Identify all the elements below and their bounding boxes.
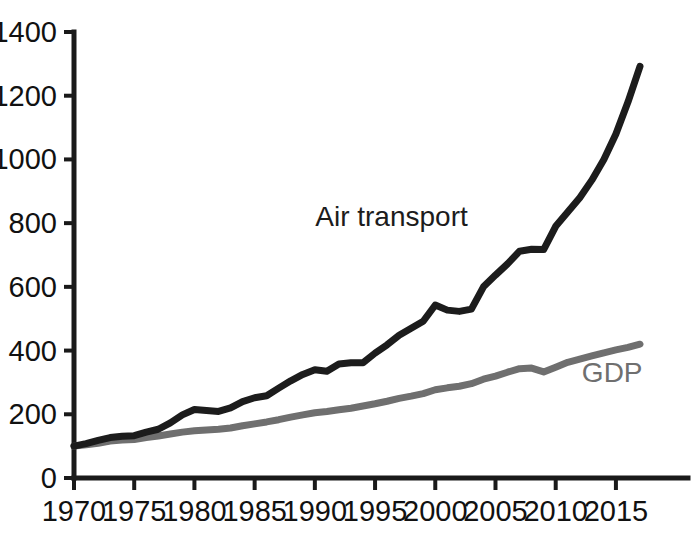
series-label-gdp: GDP bbox=[582, 357, 643, 388]
plot-background bbox=[0, 0, 696, 533]
x-tick-label: 2000 bbox=[403, 495, 468, 527]
y-tick-label: 600 bbox=[9, 271, 57, 303]
y-tick-label: 1400 bbox=[0, 16, 57, 48]
x-tick-label: 2015 bbox=[584, 495, 649, 527]
x-tick-label: 1970 bbox=[42, 495, 107, 527]
line-chart-canvas: 0200400600800100012001400 19701975198019… bbox=[0, 0, 696, 533]
x-tick-label: 2010 bbox=[523, 495, 588, 527]
y-tick-label: 0 bbox=[41, 462, 57, 494]
y-tick-label: 200 bbox=[9, 398, 57, 430]
series-label-air-transport: Air transport bbox=[315, 201, 468, 232]
x-tick-label: 1995 bbox=[343, 495, 408, 527]
chart-figure: 0200400600800100012001400 19701975198019… bbox=[0, 0, 696, 533]
x-tick-label: 1990 bbox=[283, 495, 348, 527]
y-tick-label: 800 bbox=[9, 207, 57, 239]
x-tick-label: 1980 bbox=[162, 495, 227, 527]
x-tick-label: 1985 bbox=[222, 495, 287, 527]
y-tick-label: 1200 bbox=[0, 80, 57, 112]
x-tick-label: 2005 bbox=[463, 495, 528, 527]
x-tick-label: 1975 bbox=[102, 495, 167, 527]
y-tick-label: 1000 bbox=[0, 143, 57, 175]
y-tick-label: 400 bbox=[9, 335, 57, 367]
